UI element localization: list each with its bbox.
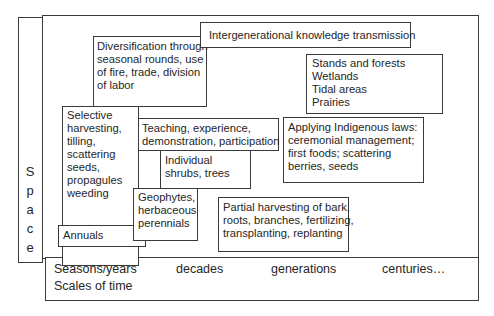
time-tick-decades: decades: [176, 262, 223, 276]
space-letter-e: e: [18, 238, 42, 257]
annuals-text: Annuals: [63, 229, 103, 242]
space-letter-s: S: [18, 162, 42, 181]
time-tick-centuries: centuries…: [382, 262, 445, 276]
teaching-text: Teaching, experience, demonstration, par…: [142, 122, 279, 148]
space-letter-a: a: [18, 200, 42, 219]
diversification-text: Diversification through seasonal rounds,…: [97, 40, 208, 92]
partial-harvest-text: Partial harvesting of bark, roots, branc…: [223, 201, 354, 240]
intergenerational-text: Intergenerational knowledge transmission: [209, 29, 415, 42]
time-axis-label: Scales of time: [54, 279, 133, 293]
geophytes-text: Geophytes, herbaceous perennials: [138, 191, 196, 230]
applying-text: Applying Indigenous laws: ceremonial man…: [288, 121, 417, 173]
space-letter-p: p: [18, 181, 42, 200]
habitats-text: Stands and forests Wetlands Tidal areas …: [312, 57, 405, 109]
space-letter-c: c: [18, 219, 42, 238]
individual-text: Individual shrubs, trees: [165, 154, 230, 180]
space-axis-label: S p a c e: [18, 162, 42, 257]
time-tick-generations: generations: [271, 262, 336, 276]
selective-text: Selective harvesting, tilling, scatterin…: [67, 109, 122, 200]
